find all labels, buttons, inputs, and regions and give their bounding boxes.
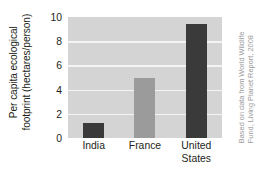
source-credit-line-2: Fund, Living Planet Report, 2008 bbox=[247, 32, 256, 144]
x-axis-tick-label-line: India bbox=[68, 140, 119, 153]
y-axis-label-line-1: Per capita ecological bbox=[7, 14, 20, 131]
x-axis-tick-label-line: United bbox=[171, 140, 222, 153]
y-axis-tick-labels: 0246810 bbox=[40, 17, 65, 138]
y-axis-tick-label: 2 bbox=[56, 108, 62, 119]
source-credit: Based on data from World Wildlife Fund, … bbox=[228, 0, 266, 175]
bar-group bbox=[68, 17, 222, 138]
y-axis-tick-label: 8 bbox=[56, 36, 62, 47]
bar-united-states[interactable] bbox=[186, 24, 207, 138]
bar-france[interactable] bbox=[134, 78, 155, 139]
x-axis-tick-label-france: France bbox=[119, 140, 170, 153]
y-axis-label: Per capita ecological footprint (hectare… bbox=[0, 0, 40, 145]
x-axis-tick-labels: IndiaFranceUnitedStates bbox=[68, 140, 222, 174]
source-credit-line-1: Based on data from World Wildlife bbox=[238, 32, 247, 144]
x-axis-tick-label-line: France bbox=[119, 140, 170, 153]
x-axis-tick-label-line: States bbox=[171, 153, 222, 166]
bar-india[interactable] bbox=[83, 123, 104, 138]
bar-chart-figure: Per capita ecological footprint (hectare… bbox=[0, 0, 270, 175]
bar-slot bbox=[68, 17, 119, 138]
y-axis-tick-label: 0 bbox=[56, 133, 62, 144]
source-credit-text: Based on data from World Wildlife Fund, … bbox=[238, 32, 257, 144]
y-axis-tick-label: 10 bbox=[50, 12, 62, 23]
bar-slot bbox=[119, 17, 170, 138]
y-axis-label-line-2: footprint (hectares/person) bbox=[20, 14, 33, 131]
x-axis-tick-label-india: India bbox=[68, 140, 119, 153]
y-axis-tick-label: 6 bbox=[56, 60, 62, 71]
bar-slot bbox=[171, 17, 222, 138]
y-axis-tick-label: 4 bbox=[56, 84, 62, 95]
plot-area bbox=[68, 17, 222, 138]
y-axis-label-text: Per capita ecological footprint (hectare… bbox=[7, 14, 33, 131]
x-axis-tick-label-united-states: UnitedStates bbox=[171, 140, 222, 165]
